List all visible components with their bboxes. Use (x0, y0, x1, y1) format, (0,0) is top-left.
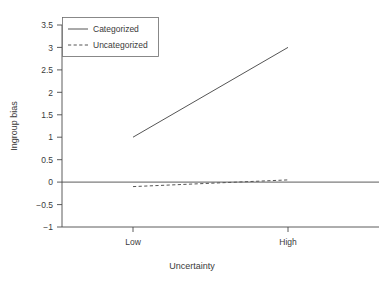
legend-label-uncategorized: Uncategorized (93, 40, 148, 50)
chart-figure: 3.5 3 2.5 2 1.5 1 0.5 0 −0.5 −1 Low High… (0, 0, 385, 286)
x-tick-label: High (279, 237, 297, 247)
y-tick-label: 3 (48, 43, 53, 53)
y-tick-label: 0 (48, 177, 53, 187)
chart-legend: Categorized Uncategorized (63, 18, 159, 57)
x-axis-title: Uncertainty (169, 261, 215, 271)
y-tick-label: −0.5 (36, 200, 53, 210)
y-tick-label: 3.5 (41, 20, 53, 30)
y-tick-label: −1 (43, 222, 53, 232)
y-tick-label: 1 (48, 132, 53, 142)
y-axis-title: Ingroup bias (9, 101, 19, 151)
x-tick-label: Low (125, 237, 141, 247)
y-tick-label: 1.5 (41, 110, 53, 120)
y-tick-label: 0.5 (41, 155, 53, 165)
y-tick-label: 2.5 (41, 65, 53, 75)
legend-label-categorized: Categorized (93, 24, 139, 34)
line-chart-canvas: 3.5 3 2.5 2 1.5 1 0.5 0 −0.5 −1 Low High… (0, 0, 385, 286)
y-tick-label: 2 (48, 88, 53, 98)
chart-background (0, 0, 385, 286)
